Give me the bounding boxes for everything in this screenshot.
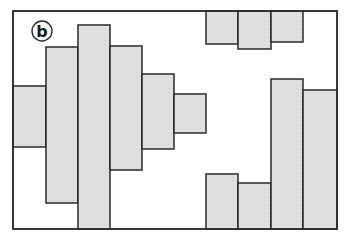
bottom-right-bar-1 [206,174,238,229]
left-bar-1 [13,86,46,147]
left-bar-2 [46,47,78,203]
left-bar-5 [142,74,174,149]
figure-label: b [36,22,47,41]
bar-diagram: b [0,0,347,239]
bottom-right-bar-2 [238,183,271,229]
top-right-bar-1 [206,11,238,44]
top-right-bar-2 [238,11,271,49]
top-right-bar-3 [271,11,303,42]
figure-label-badge: b [32,21,52,41]
bottom-right-bar-4 [303,90,337,229]
left-bar-6 [174,94,206,133]
left-bar-3 [78,25,110,229]
bottom-right-bar-3 [271,79,303,229]
left-bar-4 [110,46,142,170]
